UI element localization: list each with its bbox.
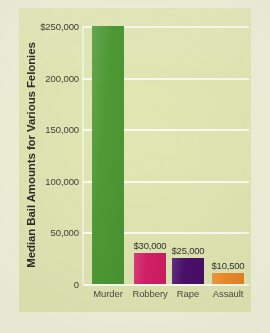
bar-highlight (212, 273, 244, 284)
bar-rape[interactable] (172, 258, 204, 284)
bar-highlight (134, 253, 166, 284)
value-label-rape: $25,000 (161, 245, 215, 256)
bar-robbery[interactable] (134, 253, 166, 284)
y-tick-label: 100,000 (17, 175, 79, 186)
y-tick-label: 200,000 (17, 72, 79, 83)
plot-area: Murder $30,000 Robbery $25,000 Rape $10,… (83, 26, 249, 284)
category-label-assault: Assault (201, 288, 255, 299)
bar-murder[interactable] (92, 26, 124, 284)
y-tick-label: $250,000 (17, 21, 79, 32)
y-tick-label: 0 (17, 279, 79, 290)
bar-assault[interactable] (212, 273, 244, 284)
value-label-assault: $10,500 (201, 260, 255, 271)
y-axis-line (82, 26, 84, 284)
gridline-0 (83, 284, 249, 286)
y-tick-label: 50,000 (17, 227, 79, 238)
bar-highlight (92, 26, 124, 284)
y-axis-tick-labels: 0 50,000 100,000 150,000 200,000 $250,00… (15, 26, 79, 284)
bar-chart-figure: Median Bail Amounts for Various Felonies… (0, 0, 270, 333)
y-tick-label: 150,000 (17, 124, 79, 135)
bar-highlight (172, 258, 204, 284)
